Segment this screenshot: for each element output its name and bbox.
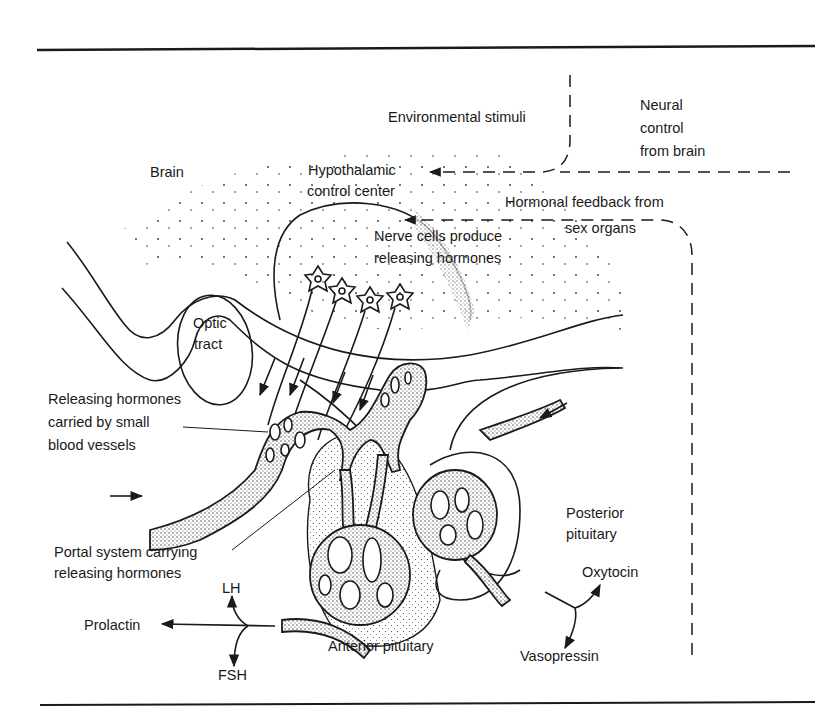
- bottom-rule: [40, 702, 815, 705]
- label-releasing-small-1: Releasing hormones: [48, 391, 181, 407]
- label-hormonal-feedback-1: Hormonal feedback from: [505, 194, 664, 210]
- hypothalamus-pituitary-diagram: Environmental stimuli Neural control fro…: [0, 0, 815, 716]
- label-hypothalamic-2: control center: [307, 183, 395, 199]
- top-rule: [37, 46, 815, 50]
- label-nerve-cells-1: Nerve cells produce: [374, 228, 502, 244]
- label-posterior-1: Posterior: [566, 505, 624, 521]
- label-brain: Brain: [150, 164, 184, 180]
- label-neural-control-1: Neural: [640, 97, 683, 113]
- label-anterior: Anterior pituitary: [328, 638, 434, 654]
- label-optic-1: Optic: [193, 315, 227, 331]
- flow-arrows: [260, 358, 373, 410]
- label-fsh: FSH: [218, 667, 247, 683]
- label-prolactin: Prolactin: [84, 617, 140, 633]
- anterior-outputs: [162, 596, 275, 666]
- label-neural-control-3: from brain: [640, 143, 705, 159]
- label-portal-1: Portal system carrying: [54, 544, 197, 560]
- label-releasing-small-2: carried by small: [48, 414, 150, 430]
- posterior-outputs: [545, 585, 600, 648]
- label-neural-control-2: control: [640, 120, 684, 136]
- label-hormonal-feedback-2: sex organs: [565, 220, 636, 236]
- label-releasing-small-3: blood vessels: [48, 437, 136, 453]
- label-hypothalamic-1: Hypothalamic: [308, 162, 396, 178]
- label-optic-2: tract: [194, 336, 222, 352]
- leader-small-vessels: [183, 427, 268, 432]
- label-lh: LH: [222, 580, 241, 596]
- label-environmental-stimuli: Environmental stimuli: [388, 109, 526, 125]
- label-nerve-cells-2: releasing hormones: [374, 250, 501, 266]
- label-oxytocin: Oxytocin: [582, 564, 638, 580]
- label-posterior-2: pituitary: [566, 526, 618, 542]
- label-portal-2: releasing hormones: [54, 565, 181, 581]
- label-vasopressin: Vasopressin: [520, 648, 599, 664]
